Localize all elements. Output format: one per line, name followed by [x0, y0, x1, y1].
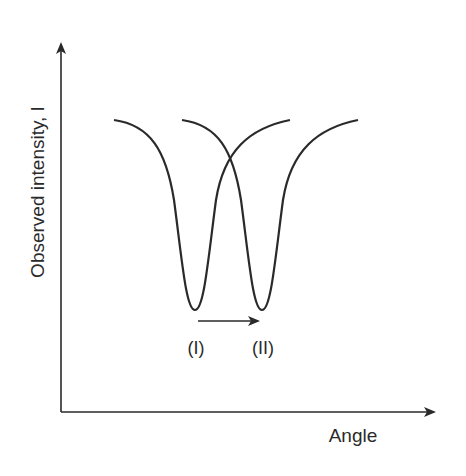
peak-label-I: (I) — [188, 338, 205, 358]
curve-II — [182, 120, 358, 310]
y-axis-label: Observed intensity, I — [27, 106, 48, 278]
peak-label-II: (II) — [252, 338, 274, 358]
x-axis-label: Angle — [329, 425, 378, 446]
curve-I — [114, 120, 290, 310]
diagram-canvas: (I) (II) Observed intensity, I Angle — [0, 0, 466, 476]
